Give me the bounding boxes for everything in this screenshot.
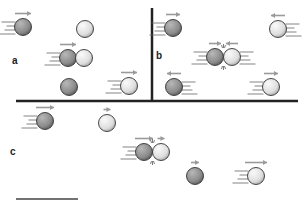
ball-circle bbox=[121, 78, 138, 95]
ball-dark bbox=[45, 42, 77, 67]
ball-circle bbox=[99, 115, 116, 132]
ball-dark bbox=[192, 41, 226, 70]
ball-light bbox=[99, 107, 116, 132]
collision-spark-icon bbox=[225, 45, 226, 48]
ball-circle bbox=[224, 49, 241, 66]
ball-circle bbox=[187, 168, 204, 185]
ball-dark bbox=[22, 105, 55, 130]
collision-spark-icon bbox=[222, 45, 223, 48]
ball-dark bbox=[166, 71, 198, 96]
ball-light bbox=[153, 136, 170, 161]
diagram-canvas bbox=[0, 0, 303, 201]
arrow-head-icon bbox=[27, 11, 31, 16]
ball-circle bbox=[37, 113, 54, 130]
ball-dark bbox=[0, 11, 32, 36]
ball-circle bbox=[60, 50, 77, 67]
arrow-head-icon bbox=[271, 13, 275, 18]
arrow-head-icon bbox=[161, 136, 165, 141]
ball-light bbox=[270, 13, 302, 38]
arrow-head-icon bbox=[176, 12, 180, 17]
collision-spark-icon bbox=[151, 161, 152, 164]
ball-dark bbox=[150, 12, 182, 37]
ball-circle bbox=[76, 50, 93, 67]
ball-circle bbox=[61, 79, 78, 96]
ball-light bbox=[248, 71, 280, 96]
ball-circle bbox=[153, 144, 170, 161]
collision-spark-icon bbox=[225, 66, 226, 69]
ball-circle bbox=[165, 20, 182, 37]
arrow-head-icon bbox=[263, 160, 267, 165]
panel-label-b: b bbox=[156, 50, 162, 61]
ball-dark bbox=[187, 160, 204, 185]
ball-light bbox=[106, 70, 138, 95]
ball-dark bbox=[61, 79, 78, 96]
collision-spark-icon bbox=[154, 161, 155, 164]
ball-dark bbox=[121, 136, 155, 165]
ball-circle bbox=[136, 144, 153, 161]
ball-light bbox=[76, 50, 93, 67]
ball-circle bbox=[15, 19, 32, 36]
ball-circle bbox=[207, 49, 224, 66]
arrow-head-icon bbox=[274, 71, 278, 76]
ball-light bbox=[233, 160, 268, 185]
arrow-head-icon bbox=[133, 70, 137, 75]
arrow-head-icon bbox=[226, 41, 230, 46]
arrow-head-icon bbox=[167, 71, 171, 76]
ball-circle bbox=[263, 79, 280, 96]
collision-spark-icon bbox=[222, 66, 223, 69]
ball-circle bbox=[166, 79, 183, 96]
arrow-head-icon bbox=[72, 42, 76, 47]
arrow-head-icon bbox=[107, 107, 111, 112]
arrow-head-icon bbox=[217, 41, 221, 46]
collision-spark-icon bbox=[151, 140, 152, 143]
ball-light bbox=[224, 41, 256, 66]
ball-light bbox=[77, 21, 94, 38]
ball-circle bbox=[77, 21, 94, 38]
arrow-head-icon bbox=[195, 160, 199, 165]
panel-label-a: a bbox=[12, 55, 18, 66]
collision-spark-icon bbox=[154, 140, 155, 143]
collision-diagram: a b c bbox=[0, 0, 303, 201]
ball-circle bbox=[270, 21, 287, 38]
ball-circle bbox=[248, 168, 265, 185]
arrow-head-icon bbox=[50, 105, 54, 110]
panel-label-c: c bbox=[10, 146, 16, 157]
